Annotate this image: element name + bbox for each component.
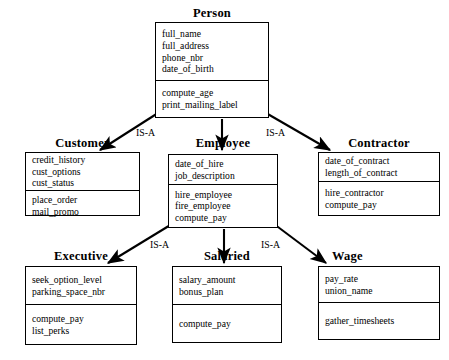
methods-executive: compute_pay list_perks <box>26 305 136 344</box>
methods-employee: hire_employee fire_employee compute_pay <box>169 185 277 227</box>
attribute: union_name <box>325 285 439 297</box>
methods-wage: gather_timesheets <box>319 303 439 339</box>
method: fire_employee <box>175 200 277 212</box>
methods-person: compute_age print_mailing_label <box>156 81 268 117</box>
attribute: cust_options <box>32 166 139 178</box>
class-box-employee: date_of_hire job_description hire_employ… <box>168 154 278 228</box>
attributes-person: full_name full_address phone_nbr date_of… <box>156 23 268 81</box>
class-salaried[interactable]: Salaried salary_amount bonus_plan comput… <box>172 249 282 343</box>
class-box-executive: seek_option_level parking_space_nbr comp… <box>25 266 137 345</box>
class-employee[interactable]: Employee date_of_hire job_description hi… <box>168 136 278 228</box>
class-wage[interactable]: Wage pay_rate union_name gather_timeshee… <box>318 249 440 340</box>
attributes-contractor: date_of_contract length_of_contract <box>319 153 439 182</box>
class-title-person: Person <box>155 6 269 21</box>
class-contractor[interactable]: Contractor date_of_contract length_of_co… <box>318 136 440 216</box>
class-customer[interactable]: Customer credit_history cust_options cus… <box>25 136 140 216</box>
class-box-contractor: date_of_contract length_of_contract hire… <box>318 152 440 216</box>
method: gather_timesheets <box>325 315 439 327</box>
uml-class-diagram: Person full_name full_address phone_nbr … <box>0 0 449 360</box>
attributes-wage: pay_rate union_name <box>319 267 439 303</box>
method: list_perks <box>32 325 136 337</box>
class-box-wage: pay_rate union_name gather_timesheets <box>318 266 440 340</box>
attribute: seek_option_level <box>32 274 136 286</box>
class-title-contractor: Contractor <box>318 136 440 151</box>
method: compute_pay <box>175 212 277 224</box>
method: print_mailing_label <box>162 99 268 111</box>
methods-customer: place_order mail_promo <box>26 191 139 220</box>
attribute: full_name <box>162 28 268 40</box>
method: mail_promo <box>32 206 139 218</box>
attributes-customer: credit_history cust_options cust_status <box>26 153 139 191</box>
class-title-executive: Executive <box>25 249 137 264</box>
attribute: cust_status <box>32 177 139 189</box>
methods-contractor: hire_contractor compute_pay <box>319 182 439 215</box>
method: compute_age <box>162 87 268 99</box>
class-box-person: full_name full_address phone_nbr date_of… <box>155 22 269 118</box>
attributes-employee: date_of_hire job_description <box>169 155 277 185</box>
class-title-salaried: Salaried <box>172 249 282 264</box>
attribute: job_description <box>175 170 277 182</box>
class-title-employee: Employee <box>168 136 278 151</box>
isa-label-employee-salaried: IS-A <box>150 239 169 250</box>
attribute: date_of_hire <box>175 158 277 170</box>
attribute: salary_amount <box>179 274 281 286</box>
attribute: length_of_contract <box>325 167 439 179</box>
class-executive[interactable]: Executive seek_option_level parking_spac… <box>25 249 137 345</box>
method: compute_pay <box>179 318 281 330</box>
method: place_order <box>32 194 139 206</box>
isa-label-person-contractor: IS-A <box>266 127 285 138</box>
attribute: full_address <box>162 40 268 52</box>
class-title-wage: Wage <box>318 249 449 264</box>
class-title-customer: Customer <box>25 136 140 151</box>
attribute: bonus_plan <box>179 286 281 298</box>
methods-salaried: compute_pay <box>173 305 281 342</box>
attribute: date_of_birth <box>162 63 268 75</box>
attribute: pay_rate <box>325 273 439 285</box>
isa-label-person-employee: IS-A <box>136 127 155 138</box>
attribute: phone_nbr <box>162 52 268 64</box>
attributes-salaried: salary_amount bonus_plan <box>173 267 281 305</box>
attribute: parking_space_nbr <box>32 286 136 298</box>
method: compute_pay <box>32 313 136 325</box>
method: hire_employee <box>175 189 277 201</box>
isa-label-employee-wage: IS-A <box>261 239 280 250</box>
attribute: date_of_contract <box>325 155 439 167</box>
method: hire_contractor <box>325 187 439 199</box>
attribute: credit_history <box>32 154 139 166</box>
attributes-executive: seek_option_level parking_space_nbr <box>26 267 136 305</box>
class-person[interactable]: Person full_name full_address phone_nbr … <box>155 6 269 118</box>
class-box-customer: credit_history cust_options cust_status … <box>25 152 140 216</box>
method: compute_pay <box>325 199 439 211</box>
class-box-salaried: salary_amount bonus_plan compute_pay <box>172 266 282 343</box>
